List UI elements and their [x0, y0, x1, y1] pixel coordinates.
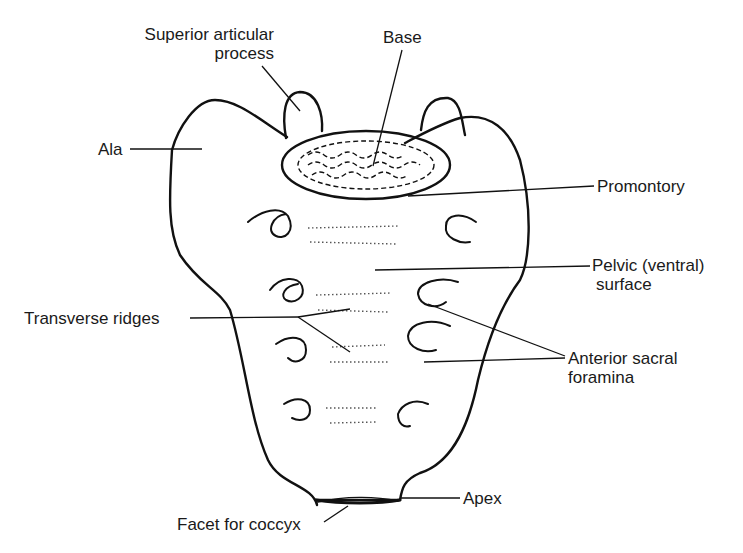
label-superior-articular-process: Superior articular process — [112, 25, 274, 63]
label-line: Anterior sacral — [568, 349, 678, 368]
label-facet-for-coccyx: Facet for coccyx — [177, 515, 301, 534]
sacrum-outline — [170, 100, 529, 505]
right-superior-articular-process — [421, 98, 465, 135]
label-line: Superior articular — [112, 25, 274, 44]
label-line: surface — [592, 275, 704, 294]
label-ala: Ala — [98, 140, 123, 159]
label-transverse-ridges: Transverse ridges — [24, 309, 159, 328]
label-line: foramina — [568, 368, 678, 387]
label-line: Pelvic (ventral) — [592, 256, 704, 275]
label-base: Base — [383, 28, 422, 47]
label-apex: Apex — [463, 489, 502, 508]
label-line: process — [112, 44, 274, 63]
label-pelvic-surface: Pelvic (ventral) surface — [592, 256, 704, 294]
label-anterior-sacral-foramina: Anterior sacral foramina — [568, 349, 678, 387]
label-promontory: Promontory — [597, 177, 685, 196]
